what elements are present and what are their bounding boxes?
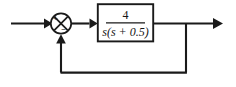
- transfer-function-block: 4 s(s + 0.5): [98, 4, 153, 41]
- output-arrow-head-icon: [213, 18, 223, 29]
- error-arrow-head-icon: [90, 19, 98, 29]
- summing-junction: + −: [51, 13, 71, 33]
- feedback-arrow-head-icon: [56, 34, 66, 43]
- summing-junction-minus-sign: −: [61, 24, 66, 34]
- block-diagram-canvas: + − 4 s(s + 0.5): [0, 0, 236, 87]
- error-signal-wire: [71, 19, 98, 29]
- output-signal-wire: [153, 18, 223, 29]
- block-diagram-figure: + − 4 s(s + 0.5): [0, 0, 236, 87]
- summing-junction-plus-sign: +: [53, 13, 58, 23]
- transfer-function-denominator: s(s + 0.5): [102, 25, 148, 39]
- transfer-function-numerator: 4: [123, 8, 129, 22]
- input-signal-wire: [11, 19, 53, 29]
